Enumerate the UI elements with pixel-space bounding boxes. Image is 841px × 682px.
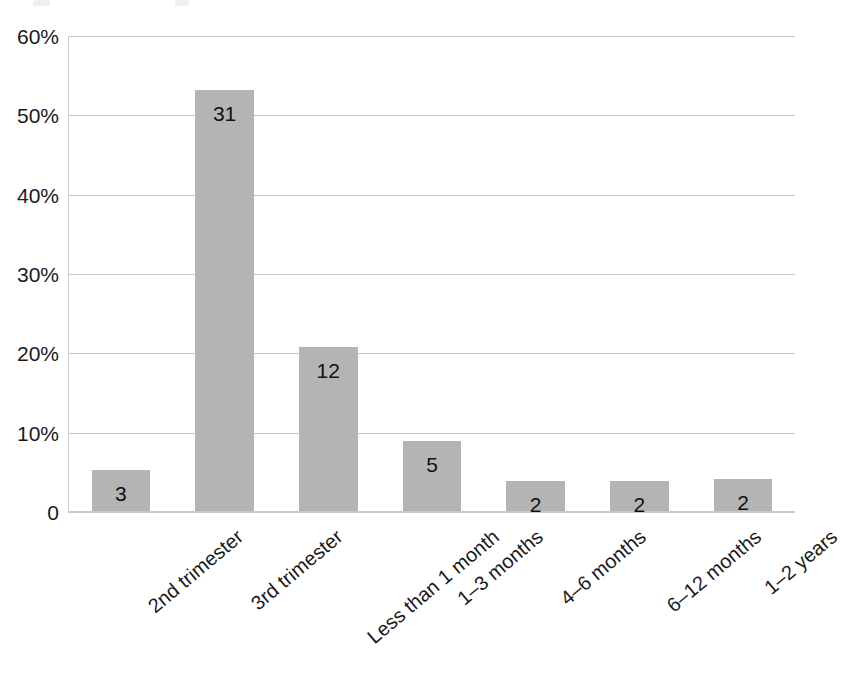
bar-value-label: 2 [714,492,773,513]
bar[interactable] [403,441,462,511]
bar-group[interactable]: 12 [299,36,358,511]
bar-group[interactable]: 2 [506,36,565,511]
x-axis-tick-label: 1–2 years [761,526,841,598]
cropped-title-remnant-right [175,0,189,6]
bar-group[interactable]: 3 [92,36,151,511]
bar[interactable] [195,90,254,511]
bar-value-label: 12 [299,360,358,381]
bars-layer: 331125222 [69,36,795,511]
cropped-title-remnant-left [33,0,50,6]
y-axis-tick-label: 0 [47,502,59,523]
x-axis-tick-label: 2nd trimester [144,526,246,616]
x-axis-tick-label: 6–12 months [663,526,764,616]
x-axis-tick-label: 3rd trimester [247,526,346,613]
bar-group[interactable]: 2 [714,36,773,511]
plot-area: 010%20%30%40%50%60% 331125222 [68,36,795,512]
y-axis-tick-label: 50% [17,105,59,126]
bar-group[interactable]: 5 [403,36,462,511]
bar-group[interactable]: 31 [195,36,254,511]
bar-value-label: 5 [403,454,462,475]
x-axis-tick-label: 4–6 months [557,526,650,609]
bar-value-label: 3 [92,483,151,504]
x-axis-tick-labels: 2nd trimester3rd trimesterLess than 1 mo… [68,512,795,682]
bar-value-label: 31 [195,103,254,124]
y-axis-tick-label: 60% [17,26,59,47]
y-axis-tick-label: 30% [17,264,59,285]
bar-group[interactable]: 2 [610,36,669,511]
y-axis-tick-label: 20% [17,343,59,364]
y-axis-tick-label: 40% [17,184,59,205]
y-axis-tick-label: 10% [17,422,59,443]
